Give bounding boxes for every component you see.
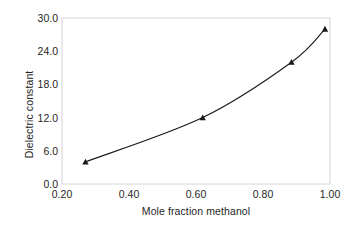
data-markers bbox=[82, 26, 328, 165]
data-line bbox=[85, 29, 325, 162]
plot-area bbox=[0, 0, 345, 229]
data-point-marker bbox=[200, 114, 206, 120]
data-point-marker bbox=[322, 26, 328, 32]
plot-frame bbox=[62, 18, 330, 184]
chart-figure: Dielectric constant 0.0 6.0 12.0 18.0 24… bbox=[0, 0, 345, 229]
